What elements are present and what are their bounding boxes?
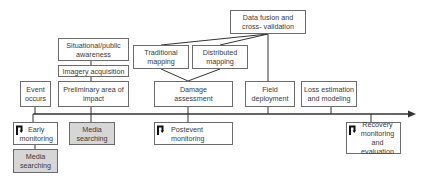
media-searching-box-left: Media searching [13,149,58,173]
return-arrow-icon [157,125,164,135]
data-fusion-label: Data fusion and cross- validation [242,13,294,31]
field-deployment-box: Field deployment [245,81,295,107]
data-fusion-box: Data fusion and cross- validation [230,10,306,34]
field-deployment-label: Field deployment [251,85,288,103]
return-arrow-icon [16,125,23,135]
timeline-arrowhead-icon [408,111,416,118]
media-searching-box-mid: Media searching [69,122,115,145]
disaster-response-timeline-diagram: Event occurs Preliminary area of impact … [0,0,429,179]
event-occurs-label: Event occurs [25,85,46,103]
return-arrow-icon [349,125,356,135]
postevent-monitoring-box: Postevent monitoring [154,122,233,145]
damage-assessment-label: Damage assessment [174,85,212,103]
situational-awareness-label: Situational/public awareness [66,41,120,59]
loss-estimation-box: Loss estimation and modeling [301,81,357,107]
imagery-acquisition-box: Imagery acquisition [58,65,129,77]
distributed-mapping-label: Distributed mapping [203,48,237,66]
situational-awareness-box: Situational/public awareness [58,38,129,61]
early-monitoring-box: Early monitoring [13,122,58,145]
traditional-mapping-box: Traditional mapping [133,45,189,69]
preliminary-area-label: Preliminary area of impact [63,85,123,103]
postevent-monitoring-label: Postevent monitoring [157,125,228,143]
media-searching-mid-label: Media searching [76,125,107,143]
media-searching-left-label: Media searching [20,152,51,170]
event-occurs-box: Event occurs [20,81,51,107]
damage-assessment-box: Damage assessment [154,81,233,107]
preliminary-area-of-impact-box: Preliminary area of impact [58,81,129,107]
loss-estimation-label: Loss estimation and modeling [304,85,354,103]
recovery-monitoring-box: Recovery monitoring and evaluation [346,122,401,154]
traditional-mapping-label: Traditional mapping [144,48,177,66]
distributed-mapping-box: Distributed mapping [192,45,248,69]
recovery-monitoring-label: Recovery monitoring and evaluation [349,120,396,156]
imagery-acquisition-label: Imagery acquisition [63,67,125,76]
